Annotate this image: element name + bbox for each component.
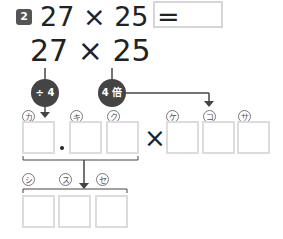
label-se: セ [96,173,109,186]
label-su: ス [59,173,72,186]
box-shi[interactable] [22,195,55,228]
label-shi: シ [22,173,35,186]
times-sign: × [144,123,166,153]
times-4-operation: 4 倍 [98,79,126,107]
box-ki[interactable] [69,121,102,154]
box-ko[interactable] [202,121,235,154]
box-ka[interactable] [22,121,55,154]
expression-large: 27 × 25 [30,34,151,68]
box-sa[interactable] [237,121,270,154]
box-ke[interactable] [166,121,199,154]
box-se[interactable] [95,195,128,228]
problem-number-badge: 2 [16,9,32,25]
decimal-point [60,146,64,150]
box-su[interactable] [58,195,91,228]
divide-by-4-operation: ÷ 4 [31,79,59,107]
box-ku[interactable] [106,121,139,154]
answer-input-box[interactable] [153,1,223,28]
